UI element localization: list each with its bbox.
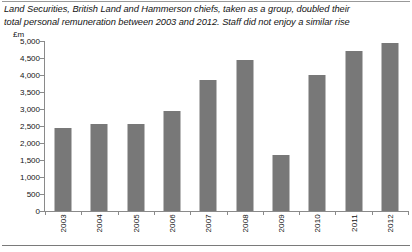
- x-axis-tick-label: 2003: [59, 214, 68, 233]
- bar[interactable]: [236, 60, 253, 211]
- bottom-divider: [2, 245, 410, 246]
- x-axis-tick: [408, 211, 409, 215]
- y-axis-tick-label: 0: [6, 207, 40, 216]
- plot-area: [44, 41, 408, 212]
- y-axis-tick-label: 3,000: [6, 105, 40, 114]
- bar[interactable]: [200, 80, 217, 211]
- x-axis-tick-label: 2012: [385, 214, 394, 233]
- bar[interactable]: [127, 124, 144, 211]
- bar[interactable]: [91, 124, 108, 211]
- y-axis-tick-label: 1,500: [6, 156, 40, 165]
- x-axis-tick-label: 2011: [349, 214, 358, 232]
- bar[interactable]: [164, 111, 181, 211]
- bar-slot: [299, 41, 335, 211]
- y-axis-tick-label: 2,500: [6, 122, 40, 131]
- caption-line-1: Land Securities, British Land and Hammer…: [4, 3, 408, 16]
- bar-slot: [154, 41, 190, 211]
- y-axis-tick-label: 2,000: [6, 139, 40, 148]
- x-axis-tick-label: 2004: [95, 214, 104, 233]
- bar[interactable]: [309, 75, 326, 211]
- bar-slot: [190, 41, 226, 211]
- bar-slot: [335, 41, 371, 211]
- bar-slot: [372, 41, 408, 211]
- bar-slot: [81, 41, 117, 211]
- bar[interactable]: [272, 155, 289, 211]
- bar-slot: [45, 41, 81, 211]
- caption-line-2: total personal remuneration between 2003…: [4, 16, 408, 29]
- bar[interactable]: [55, 128, 72, 211]
- chart-figure: Land Securities, British Land and Hammer…: [0, 0, 412, 252]
- y-axis-tick-label: 5,000: [6, 37, 40, 46]
- bar-slot: [118, 41, 154, 211]
- chart-caption: Land Securities, British Land and Hammer…: [4, 3, 408, 29]
- x-axis-tick-label: 2008: [240, 214, 249, 233]
- x-axis-tick-label: 2010: [313, 214, 322, 233]
- y-axis-tick-label: 1,000: [6, 173, 40, 182]
- bar-series: [45, 41, 408, 211]
- bar[interactable]: [345, 51, 362, 211]
- y-axis-tick-label: 4,000: [6, 71, 40, 80]
- bar[interactable]: [381, 43, 398, 211]
- bar-slot: [263, 41, 299, 211]
- x-axis-tick-label: 2006: [168, 214, 177, 233]
- bar-slot: [227, 41, 263, 211]
- y-axis-tick-label: 3,500: [6, 88, 40, 97]
- x-axis-tick-label: 2007: [204, 214, 213, 233]
- top-divider: [2, 1, 410, 2]
- y-axis-tick-label: 4,500: [6, 54, 40, 63]
- y-axis-labels: 05001,0001,5002,0002,5003,0003,5004,0004…: [0, 41, 40, 212]
- x-axis-tick-label: 2009: [276, 214, 285, 233]
- y-axis-tick-label: 500: [6, 190, 40, 199]
- x-axis-labels: 2003200420052006200720082009201020112012: [45, 214, 408, 244]
- x-axis-tick-label: 2005: [131, 214, 140, 233]
